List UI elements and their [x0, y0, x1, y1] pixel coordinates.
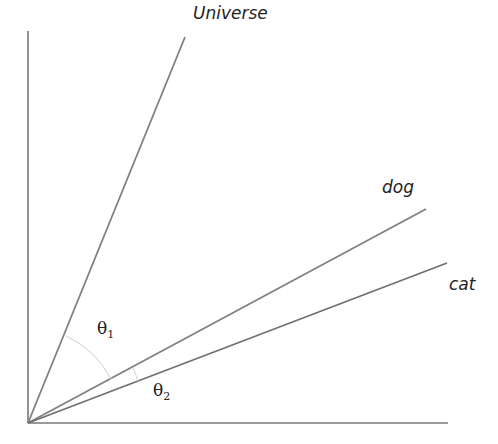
arc-theta1 [66, 336, 111, 379]
theta-symbol: θ [97, 318, 107, 338]
theta-symbol: θ [153, 380, 163, 400]
vector-cat [28, 263, 447, 423]
theta-subscript: 2 [163, 390, 170, 403]
label-cat: cat [449, 274, 475, 294]
arc-theta2 [133, 368, 138, 381]
diagram-graphics [0, 0, 498, 444]
label-theta1: θ1 [97, 318, 114, 341]
vector-dog [28, 209, 426, 423]
theta-subscript: 1 [107, 328, 114, 341]
label-dog: dog [382, 177, 414, 197]
label-theta2: θ2 [153, 380, 170, 403]
label-universe: Universe [193, 3, 268, 23]
vector-space-diagram: Universe dog cat θ1 θ2 [0, 0, 498, 444]
vector-universe [28, 37, 185, 423]
